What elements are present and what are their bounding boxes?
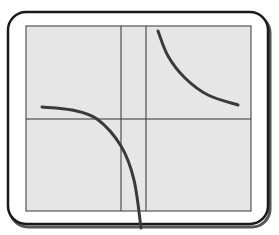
hyperbola-diagram [0, 0, 279, 235]
